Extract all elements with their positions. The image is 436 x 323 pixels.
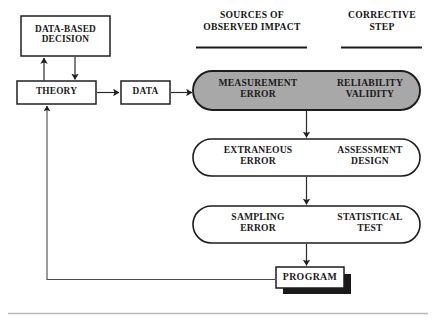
connector-program-to-theory-feedback [47,106,275,280]
data-label: DATA [121,86,170,96]
extraneous-corrective-label: ASSESSMENT DESIGN [325,145,415,166]
data-based-decision-label: DATA-BASED DECISION [21,24,110,45]
sampling-source-label: SAMPLING ERROR [200,212,316,233]
measurement-corrective-label: RELIABILITY VALIDITY [325,78,415,99]
column-header-sources: SOURCES OF OBSERVED IMPACT [186,9,318,32]
sampling-corrective-label: STATISTICAL TEST [325,212,415,233]
column-header-corrective: CORRECTIVE STEP [336,9,428,32]
extraneous-source-label: EXTRANEOUS ERROR [200,145,316,166]
flow-diagram: SOURCES OF OBSERVED IMPACT CORRECTIVE ST… [0,0,436,323]
measurement-source-label: MEASUREMENT ERROR [200,78,316,99]
theory-label: THEORY [17,86,96,96]
program-label: PROGRAM [276,272,344,283]
